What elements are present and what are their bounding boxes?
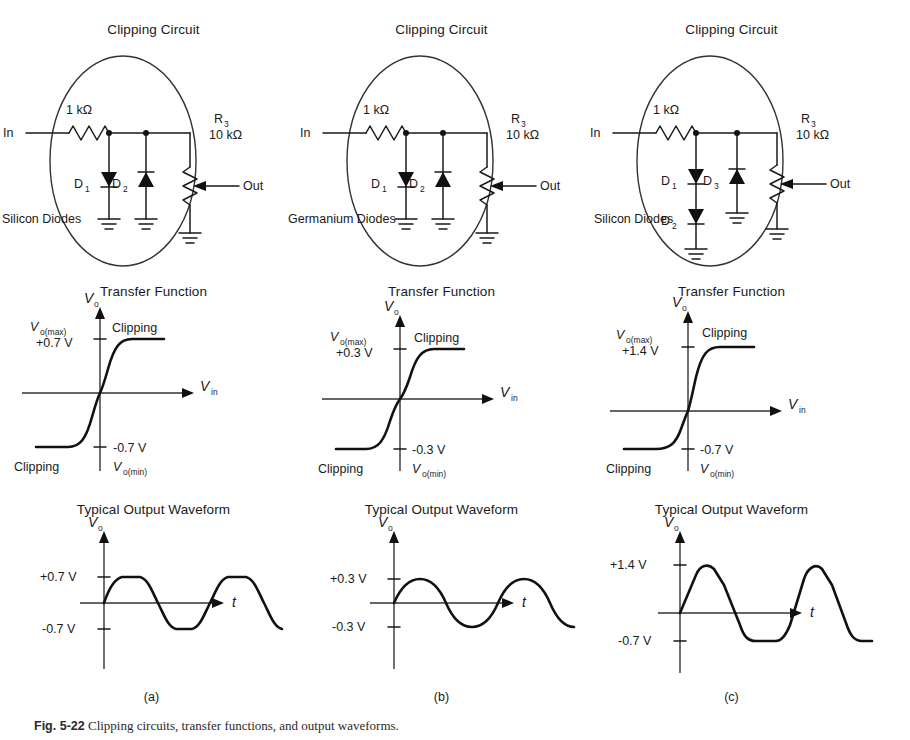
x-axis-label-sub: in (211, 387, 218, 397)
circuit-boundary-ellipse (347, 56, 493, 266)
output-waveform-a: Typical Output Waveform V o t +0.7 V -0.… (0, 502, 303, 692)
circuit-title-a: Clipping Circuit (0, 22, 303, 37)
vmin-value: -0.7 V (113, 441, 147, 455)
pot-name-label: R (214, 112, 223, 126)
clipping-annotation-top: Clipping (414, 331, 459, 345)
diode-type-label: Silicon Diodes (2, 212, 81, 226)
vmax-value: +0.7 V (36, 336, 73, 350)
d2-triangle (138, 172, 154, 187)
x-axis-arrow (212, 598, 224, 608)
vmax-value: +0.3 V (336, 346, 373, 360)
d1-triangle (688, 169, 704, 184)
vmin-label-v: V (113, 460, 123, 474)
series-resistor-symbol (69, 126, 109, 140)
vmin-label-sub: o(min) (422, 469, 446, 479)
series-resistor-label: 1 kΩ (653, 103, 679, 117)
d3-sub: 3 (714, 181, 719, 191)
panel-letter-c: (c) (580, 690, 883, 704)
figure-container: Clipping Circuit (0, 0, 910, 740)
vmin-label-sub: o(min) (123, 467, 147, 477)
circuit-diagram-c: Clipping Circuit (580, 22, 883, 284)
vmin-value: -0.3 V (412, 443, 446, 457)
pot-name-label: R (511, 112, 520, 126)
y-axis-label-sub: o (674, 523, 679, 533)
y-axis-label-sub: o (682, 303, 687, 313)
vmax-label-v: V (330, 330, 340, 344)
transfer-function-c: Transfer Function V o V in V o(max) +1.4… (580, 284, 883, 502)
pos-clip-label: +1.4 V (610, 558, 647, 572)
diode-type-label: Germanium Diodes (288, 212, 396, 226)
transfer-title-b: Transfer Function (290, 284, 593, 299)
series-resistor-label: 1 kΩ (363, 103, 389, 117)
circuit-diagram-b: Clipping Circuit (290, 22, 593, 284)
output-waveform-c: Typical Output Waveform V o t +1.4 V -0.… (580, 502, 883, 692)
input-label: In (3, 126, 13, 140)
caption-text: Clipping circuits, transfer functions, a… (88, 718, 399, 733)
transfer-function-a: Transfer Function V o V in V o(max) +0.7… (0, 284, 303, 502)
waveform-svg-c: V o t +1.4 V -0.7 V (580, 517, 883, 687)
vmin-label-v: V (700, 462, 710, 476)
d1-label: D (371, 177, 380, 191)
circuit-svg-b: In 1 kΩ R 3 10 kΩ Out D 1 D 2 Germanium … (290, 37, 593, 277)
caption-label: Fig. 5-22 (34, 719, 85, 733)
circuit-title-b: Clipping Circuit (290, 22, 593, 37)
x-axis-arrow (502, 598, 514, 608)
transfer-svg-b: V o V in V o(max) +0.3 V Clipping -0.3 V… (290, 299, 593, 494)
panel-b: Clipping Circuit (290, 0, 593, 712)
d2-label: D (409, 177, 418, 191)
vmax-label-v: V (616, 328, 626, 342)
x-axis-label: t (810, 604, 815, 620)
pos-clip-label: +0.3 V (330, 572, 367, 586)
transfer-function-b: Transfer Function V o V in V o(max) +0.3… (290, 284, 593, 502)
x-axis-label-v: V (200, 378, 211, 394)
pos-clip-label: +0.7 V (40, 570, 77, 584)
d3-triangle (729, 169, 745, 184)
circuit-title-c: Clipping Circuit (580, 22, 883, 37)
d2-label: D (112, 177, 121, 191)
waveform-svg-a: V o t +0.7 V -0.7 V (0, 517, 303, 687)
waveform-svg-b: V o t +0.3 V -0.3 V (290, 517, 593, 687)
circuit-svg-a: In 1 kΩ R 3 10 kΩ Out D 1 D 2 Silicon Di… (0, 37, 303, 277)
x-axis-label: t (522, 594, 527, 610)
clipping-annotation-bottom: Clipping (14, 460, 59, 474)
y-axis-label-sub: o (388, 523, 393, 533)
panel-letter-b: (b) (290, 690, 593, 704)
input-label: In (300, 126, 310, 140)
neg-clip-label: -0.3 V (332, 620, 366, 634)
d1-sub: 1 (382, 184, 387, 194)
vmax-label-v: V (30, 320, 40, 334)
d1-label: D (661, 174, 670, 188)
clipping-annotation-bottom: Clipping (318, 462, 363, 476)
output-label: Out (830, 177, 851, 191)
x-axis-label: t (232, 594, 237, 610)
output-label: Out (540, 179, 561, 193)
pot-value-label: 10 kΩ (506, 128, 539, 142)
output-waveform-curve (680, 566, 872, 641)
waveform-title-c: Typical Output Waveform (580, 502, 883, 517)
vmax-value: +1.4 V (622, 344, 659, 358)
x-axis-label-v: V (788, 396, 799, 412)
neg-clip-label: -0.7 V (618, 634, 652, 648)
clipping-annotation-top: Clipping (702, 326, 747, 340)
x-axis-label-sub: in (511, 393, 518, 403)
diode-type-label: Silicon Diodes (594, 212, 673, 226)
series-resistor-label: 1 kΩ (66, 103, 92, 117)
d1-label: D (74, 177, 83, 191)
input-label: In (590, 126, 600, 140)
d3-label: D (703, 174, 712, 188)
transfer-curve (624, 347, 754, 449)
d2-triangle (435, 172, 451, 187)
pot-value-label: 10 kΩ (796, 128, 829, 142)
d1-sub: 1 (85, 184, 90, 194)
panel-c: Clipping Circuit (580, 0, 883, 712)
d2-sub: 2 (123, 184, 128, 194)
d2-sub: 2 (420, 184, 425, 194)
panel-letter-a: (a) (0, 690, 303, 704)
panel-a: Clipping Circuit (0, 0, 303, 712)
pot-value-label: 10 kΩ (209, 128, 242, 142)
clipping-annotation-bottom: Clipping (606, 462, 651, 476)
y-axis-label-sub: o (94, 299, 99, 309)
waveform-title-b: Typical Output Waveform (290, 502, 593, 517)
series-resistor-symbol (656, 126, 696, 140)
x-axis-label-sub: in (799, 405, 806, 415)
